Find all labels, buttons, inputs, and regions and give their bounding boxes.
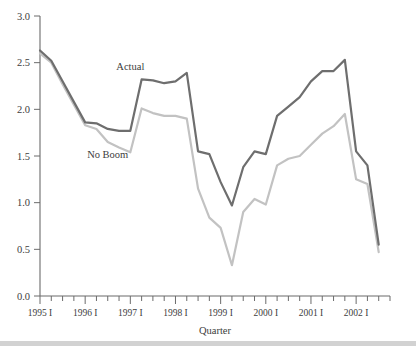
x-axis-tick-label: 2000 I [254, 308, 279, 318]
x-axis-tick-label: 1997 I [118, 308, 143, 318]
x-axis-tick-label: 2002 I [344, 308, 369, 318]
x-axis-tick-labels: 1995 I1996 I1997 I1998 I1999 I2000 I2001… [28, 308, 369, 318]
series-label-actual: Actual [116, 61, 144, 72]
y-axis-tick-label: 0.0 [17, 291, 30, 302]
footer-rule [0, 341, 416, 346]
x-axis-title: Quarter [199, 325, 232, 336]
x-axis-tick-label: 2001 I [299, 308, 324, 318]
y-axis-tick-label: 3.0 [17, 11, 30, 22]
chart-figure: 0.00.51.01.52.02.53.0 1995 I1996 I1997 I… [0, 0, 416, 346]
line-chart: 0.00.51.01.52.02.53.0 1995 I1996 I1997 I… [0, 0, 416, 346]
series-label-no-boom: No Boom [87, 149, 128, 160]
y-axis-ticks [34, 16, 40, 296]
x-axis-tick-label: 1996 I [73, 308, 98, 318]
x-axis-ticks [40, 296, 390, 304]
y-axis-tick-label: 2.0 [17, 104, 30, 115]
x-axis-tick-label: 1995 I [28, 308, 53, 318]
y-axis-tick-labels: 0.00.51.01.52.02.53.0 [17, 11, 30, 302]
y-axis-tick-label: 1.5 [17, 151, 30, 162]
y-axis-tick-label: 1.0 [17, 197, 30, 208]
x-axis-tick-label: 1998 I [163, 308, 188, 318]
x-axis-tick-label: 1999 I [208, 308, 233, 318]
y-axis-tick-label: 2.5 [17, 57, 30, 68]
y-axis-tick-label: 0.5 [17, 244, 30, 255]
